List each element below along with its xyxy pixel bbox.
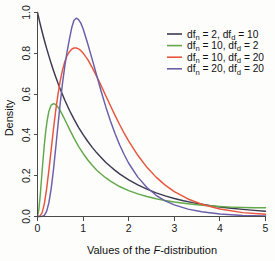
y-tick-label-1: 0.2 [20,168,32,183]
y-tick-label-2: 0.4 [20,127,32,142]
x-tick-label-4: 4 [217,222,223,234]
x-tick-label-3: 3 [171,222,177,234]
x-tick-label-5: 5 [263,222,269,234]
y-tick-label-5: 1.0 [20,5,32,20]
y-tick-label-4: 0.8 [20,46,32,61]
x-axis-title-plain: Values of the [87,244,153,256]
legend-label-4: dfn = 20, dfd = 20 [187,63,264,76]
y-tick-label-3: 0.6 [20,87,32,102]
chart-canvas: 0123450.00.20.40.60.81.0 dfn = 2, dfd = … [0,0,275,261]
density-curve-2 [38,104,266,217]
y-tick-label-0: 0.0 [20,209,32,224]
f-distribution-density-chart: 0123450.00.20.40.60.81.0 dfn = 2, dfd = … [0,0,275,261]
x-tick-label-2: 2 [126,222,132,234]
x-axis-title-tail: -distribution [160,244,217,256]
y-axis-title: Density [3,99,15,136]
x-axis-title: Values of the F-distribution [87,244,217,256]
x-tick-label-0: 0 [35,222,41,234]
x-tick-label-1: 1 [80,222,86,234]
chart-legend: dfn = 2, dfd = 10dfn = 10, dfd = 2dfn = … [167,29,264,77]
